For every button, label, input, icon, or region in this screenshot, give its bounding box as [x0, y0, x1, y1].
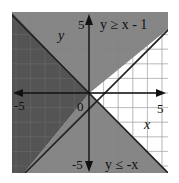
- tick-label-x-neg5: -5: [14, 98, 25, 113]
- tick-label-y-neg5: -5: [72, 157, 83, 172]
- inequality-label-1: y ≥ x - 1: [100, 17, 147, 32]
- x-axis-label: x: [143, 117, 151, 132]
- y-axis-label: y: [56, 28, 65, 43]
- tick-label-x-5: 5: [157, 101, 164, 116]
- inequality-graph: 5 y ≥ x - 1 y -5 0 5 x -5 y ≤ -x: [0, 0, 179, 183]
- inequality-label-2: y ≤ -x: [105, 157, 138, 172]
- origin-label: 0: [77, 99, 84, 114]
- tick-label-y-5: 5: [78, 17, 85, 32]
